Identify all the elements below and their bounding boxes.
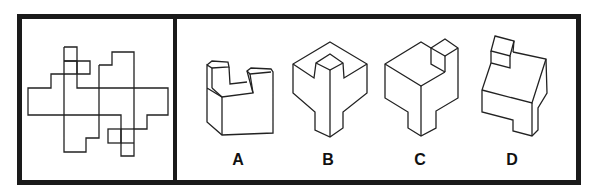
option-c-figure	[385, 39, 458, 136]
option-d-figure	[482, 36, 547, 136]
option-a-figure	[207, 61, 273, 135]
option-b-label[interactable]: B	[313, 150, 343, 170]
option-a-label[interactable]: A	[223, 150, 253, 170]
option-c-label[interactable]: C	[405, 150, 435, 170]
cube-net	[28, 47, 168, 156]
option-d-label[interactable]: D	[497, 150, 527, 170]
option-b-figure	[293, 42, 367, 137]
